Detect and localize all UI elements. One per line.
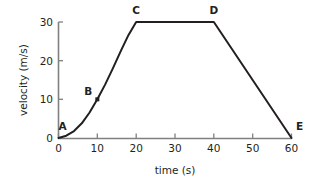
x-tick-label-60: 60	[285, 142, 298, 154]
y-tick-label-20: 20	[40, 55, 53, 67]
point-label-a: A	[58, 120, 67, 132]
x-tick-label-0: 0	[55, 142, 62, 154]
chart-plot-area: 30 20 10 0 0 10 20 30 40 50 60 time (s) …	[0, 0, 313, 182]
x-tick-label-40: 40	[207, 142, 220, 154]
point-label-e: E	[296, 120, 303, 132]
x-tick-label-10: 10	[91, 142, 104, 154]
point-label-c: C	[132, 4, 140, 16]
point-label-b: B	[84, 85, 92, 97]
y-tick-label-0: 0	[46, 132, 53, 144]
data-point-labels: ABCDE	[58, 4, 303, 132]
x-tick-label-20: 20	[130, 142, 143, 154]
point-label-d: D	[209, 4, 218, 16]
velocity-time-chart-figure: 30 20 10 0 0 10 20 30 40 50 60 time (s) …	[0, 0, 313, 182]
x-tick-label-50: 50	[246, 142, 259, 154]
y-tick-label-30: 30	[40, 16, 53, 28]
x-tick-label-30: 30	[168, 142, 181, 154]
data-point-markers	[95, 97, 99, 101]
y-tick-label-10: 10	[40, 93, 53, 105]
y-axis-title: velocity (m/s)	[17, 44, 29, 116]
point-marker-b	[95, 97, 99, 101]
velocity-curve	[59, 22, 292, 138]
x-axis-title: time (s)	[155, 164, 196, 176]
